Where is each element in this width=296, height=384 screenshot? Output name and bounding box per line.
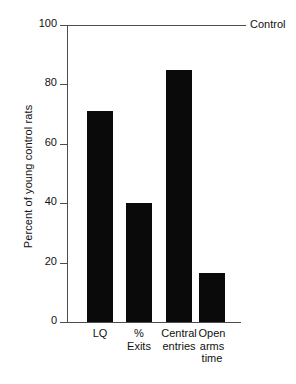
x-axis-tick-label: % Exits (117, 327, 161, 352)
y-axis-tick-mark (60, 263, 67, 264)
control-reference-label: Control (250, 18, 285, 30)
control-reference-line (67, 25, 246, 26)
y-axis-tick-mark (60, 25, 67, 26)
x-axis-tick-label: Open arms time (190, 327, 234, 365)
y-axis-tick-label: 100 (39, 17, 57, 29)
y-axis-line (67, 25, 68, 323)
y-axis-tick-label: 80 (45, 76, 57, 88)
y-axis-tick-label: 40 (45, 195, 57, 207)
x-axis-tick-label: LQ (78, 327, 122, 340)
bar-chart-figure: Percent of young control rats Control 02… (0, 0, 296, 384)
x-axis-line (67, 322, 241, 323)
y-axis-tick-mark (60, 322, 67, 323)
y-axis-tick-mark (60, 144, 67, 145)
bar (199, 273, 225, 322)
bar (166, 70, 192, 322)
bar (126, 203, 152, 322)
y-axis-tick-mark (60, 203, 67, 204)
bar (87, 111, 113, 322)
y-axis-tick-mark (60, 84, 67, 85)
y-axis-tick-label: 0 (51, 314, 57, 326)
y-axis-tick-label: 20 (45, 255, 57, 267)
y-axis-tick-label: 60 (45, 136, 57, 148)
y-axis-label: Percent of young control rats (22, 28, 36, 325)
